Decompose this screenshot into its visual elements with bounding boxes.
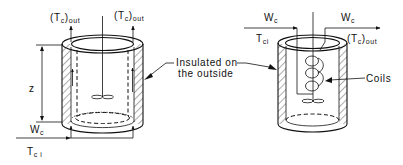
inner-vessel-bottom: [76, 113, 130, 124]
outlet-flow-label-right: Wc: [341, 12, 355, 24]
inlet-flow-label-left: Wc: [30, 124, 44, 136]
insulation-note-line1: Insulated on: [176, 57, 238, 68]
inner-top-rim: [286, 38, 340, 49]
diagram-canvas: (Tc)out (Tc)out z Wc Tc i Insulated on t…: [0, 0, 403, 165]
inlet-flow-label-right: Wc: [264, 12, 278, 24]
outlet-temp-label-right: (Tc)out: [347, 33, 377, 45]
height-label: z: [29, 83, 35, 94]
outlet-temp-label-right: (Tc)out: [114, 10, 144, 22]
inlet-temp-label-right: Tci: [256, 33, 269, 45]
jacket-wall-left: [62, 44, 71, 124]
inlet-temp-label-left: Tc i: [27, 146, 43, 158]
jacketed-vessel: (Tc)out (Tc)out z Wc Tc i: [16, 10, 144, 158]
coil-icon: [306, 56, 324, 91]
insulation-annotation: Insulated on the outside: [144, 57, 277, 80]
insulation-note-line2: the outside: [178, 68, 234, 79]
coil-vessel: Wc Wc Tci (Tc)out Coils: [244, 12, 391, 132]
outlet-temp-label-left: (Tc)out: [50, 12, 80, 24]
jacket-wall-right: [134, 44, 143, 124]
coils-label: Coils: [366, 73, 391, 84]
